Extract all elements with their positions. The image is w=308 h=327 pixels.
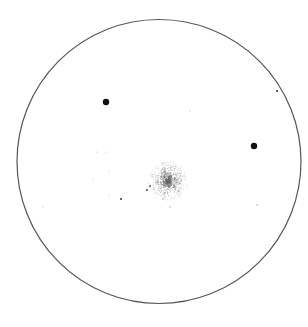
cluster-star (173, 174, 174, 175)
cluster-star (155, 192, 156, 193)
cluster-star (173, 163, 174, 164)
cluster-star (173, 168, 174, 169)
cluster-star (165, 183, 166, 184)
cluster-star (153, 179, 154, 180)
cluster-star (167, 191, 168, 192)
cluster-star (177, 192, 178, 193)
cluster-star (159, 186, 160, 187)
cluster-star (156, 180, 157, 181)
cluster-star (168, 167, 169, 168)
cluster-star (163, 187, 164, 188)
cluster-star (156, 174, 157, 175)
cluster-star (171, 187, 172, 188)
cluster-star (186, 186, 187, 187)
cluster-star (177, 174, 178, 175)
star (189, 110, 190, 111)
cluster-star (158, 195, 159, 196)
cluster-star (157, 169, 158, 170)
cluster-star (167, 198, 168, 199)
cluster-star (180, 179, 181, 180)
cluster-star (157, 189, 158, 190)
cluster-star (171, 197, 172, 198)
cluster-star (184, 185, 185, 186)
cluster-star (168, 173, 169, 174)
cluster-star (170, 185, 171, 186)
star (120, 198, 122, 200)
cluster-star (161, 181, 162, 182)
cluster-star (184, 171, 185, 172)
star (256, 204, 257, 205)
cluster-star (165, 196, 166, 197)
cluster-star (158, 175, 159, 176)
cluster-star (163, 183, 164, 184)
cluster-star (160, 175, 161, 176)
cluster-star (167, 186, 168, 187)
cluster-star (183, 189, 184, 190)
cluster-star (174, 197, 175, 198)
star (149, 185, 151, 187)
cluster-star (173, 172, 174, 173)
cluster-star (165, 161, 166, 162)
cluster-star (175, 164, 176, 165)
cluster-star (184, 173, 185, 174)
star (251, 143, 257, 149)
cluster-star (168, 171, 169, 172)
cluster-star (174, 168, 175, 169)
cluster-star (167, 169, 168, 170)
cluster-star (177, 195, 178, 196)
globular-cluster (148, 161, 188, 201)
cluster-star (174, 181, 175, 182)
cluster-star (176, 183, 177, 184)
cluster-star (180, 168, 181, 169)
cluster-star (167, 172, 168, 173)
cluster-star (178, 197, 179, 198)
field-of-view-circle (17, 20, 301, 304)
cluster-star (176, 193, 177, 194)
cluster-star (181, 184, 182, 185)
star (105, 151, 106, 152)
cluster-star (165, 168, 166, 169)
cluster-star (174, 170, 175, 171)
cluster-star (161, 188, 162, 189)
cluster-star (169, 194, 170, 195)
cluster-star (162, 179, 163, 180)
cluster-star (179, 170, 180, 171)
cluster-star (161, 176, 162, 177)
cluster-star (158, 194, 159, 195)
cluster-star (166, 164, 167, 165)
cluster-star (153, 185, 154, 186)
cluster-star (155, 193, 156, 194)
cluster-star (170, 170, 171, 171)
cluster-star (177, 178, 178, 179)
cluster-star (172, 182, 173, 183)
cluster-star (161, 162, 162, 163)
cluster-star (165, 191, 166, 192)
cluster-star (174, 189, 175, 190)
cluster-star (173, 170, 174, 171)
cluster-star (162, 169, 163, 170)
cluster-star (174, 164, 175, 165)
cluster-star (170, 189, 171, 190)
cluster-star (161, 185, 162, 186)
cluster-star (156, 181, 157, 182)
cluster-star (171, 172, 172, 173)
cluster-star (175, 195, 176, 196)
cluster-star (171, 196, 172, 197)
cluster-star (176, 169, 177, 170)
cluster-star (180, 192, 181, 193)
cluster-star (168, 163, 169, 164)
cluster-star (168, 177, 169, 178)
cluster-star (150, 187, 151, 188)
cluster-star (164, 179, 165, 180)
cluster-star (177, 180, 178, 181)
cluster-star (172, 184, 173, 185)
cluster-star (166, 183, 167, 184)
cluster-star (167, 184, 168, 185)
cluster-star (175, 198, 176, 199)
cluster-star (186, 184, 187, 185)
cluster-star (168, 195, 169, 196)
cluster-star (183, 187, 184, 188)
cluster-star (176, 188, 177, 189)
cluster-star (178, 189, 179, 190)
cluster-star (152, 174, 153, 175)
